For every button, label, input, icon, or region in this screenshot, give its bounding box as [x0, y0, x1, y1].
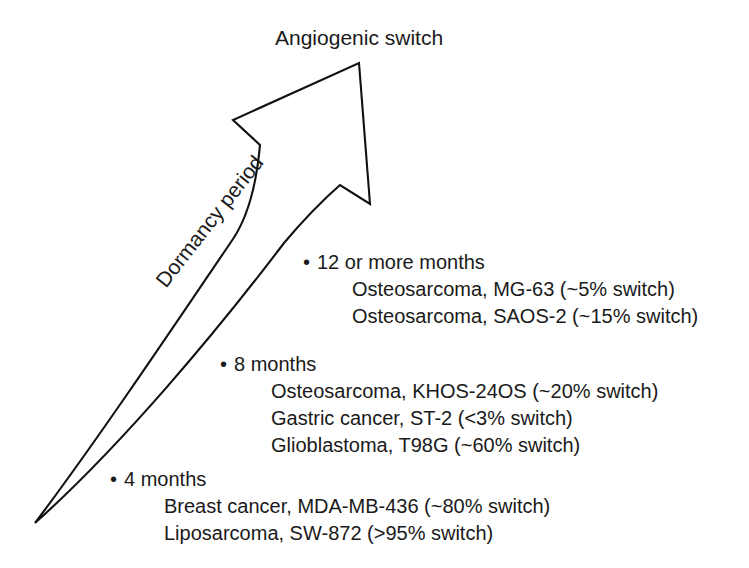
annotation-group-8-months: •8 months Osteosarcoma, KHOS-24OS (~20% … [220, 351, 658, 459]
annotation-group-4-months: •4 months Breast cancer, MDA-MB-436 (~80… [110, 466, 550, 547]
list-item: Osteosarcoma, SAOS-2 (~15% switch) [352, 303, 698, 330]
bullet-icon: • [110, 466, 124, 493]
list-item: Liposarcoma, SW-872 (>95% switch) [164, 520, 550, 547]
group-heading: •12 or more months [303, 249, 698, 276]
list-item: Osteosarcoma, MG-63 (~5% switch) [352, 276, 698, 303]
list-item: Glioblastoma, T98G (~60% switch) [271, 432, 658, 459]
list-item: Breast cancer, MDA-MB-436 (~80% switch) [164, 493, 550, 520]
group-heading: •8 months [220, 351, 658, 378]
list-item: Osteosarcoma, KHOS-24OS (~20% switch) [271, 378, 658, 405]
figure-canvas: Angiogenic switch Dormancy period •12 or… [0, 0, 749, 568]
bullet-icon: • [303, 249, 317, 276]
annotation-group-12-months: •12 or more months Osteosarcoma, MG-63 (… [303, 249, 698, 330]
group-heading-label: 8 months [234, 353, 316, 375]
list-item: Gastric cancer, ST-2 (<3% switch) [271, 405, 658, 432]
group-heading: •4 months [110, 466, 550, 493]
group-heading-label: 12 or more months [317, 251, 485, 273]
group-heading-label: 4 months [124, 468, 206, 490]
bullet-icon: • [220, 351, 234, 378]
